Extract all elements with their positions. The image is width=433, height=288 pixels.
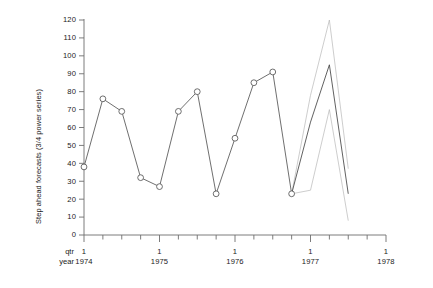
data-point-marker bbox=[232, 135, 238, 141]
chart-container: Step ahead forecasts (3/4 power series) … bbox=[0, 0, 433, 288]
series-line-observed bbox=[84, 72, 292, 194]
data-point-marker bbox=[157, 184, 163, 190]
data-point-marker bbox=[289, 191, 295, 197]
data-point-marker bbox=[251, 80, 257, 86]
data-point-marker bbox=[175, 108, 181, 114]
data-point-marker bbox=[100, 96, 106, 102]
series-line-forecast bbox=[292, 65, 349, 194]
data-point-marker bbox=[270, 69, 276, 75]
data-point-marker bbox=[81, 164, 87, 170]
plot-area bbox=[0, 0, 433, 288]
series-line-upper-bound bbox=[292, 20, 349, 194]
data-point-marker bbox=[194, 89, 200, 95]
data-point-marker bbox=[138, 175, 144, 181]
data-point-marker bbox=[119, 108, 125, 114]
data-point-marker bbox=[213, 191, 219, 197]
series-line-lower-bound bbox=[292, 110, 349, 221]
